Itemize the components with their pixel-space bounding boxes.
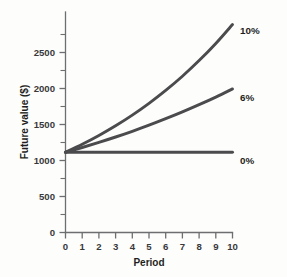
- chart-figure: 0 500 1000 1500 2000 2500 0 1 2 3 4 5 6 …: [0, 0, 287, 277]
- y-tick-label-1500: 1500: [34, 119, 55, 130]
- x-axis-title: Period: [133, 257, 164, 268]
- x-tick-label-10: 10: [227, 241, 238, 252]
- x-tick-label-6: 6: [163, 241, 168, 252]
- x-tick-label-0: 0: [63, 241, 68, 252]
- x-tick-label-8: 8: [196, 241, 202, 252]
- y-tick-label-2500: 2500: [34, 47, 55, 58]
- y-tick-label-0: 0: [50, 227, 55, 238]
- x-tick-label-9: 9: [213, 241, 218, 252]
- x-tick-label-2: 2: [96, 241, 101, 252]
- y-tick-label-2000: 2000: [34, 83, 55, 94]
- x-tick-label-4: 4: [130, 241, 136, 252]
- series-label-6-percent: 6%: [240, 92, 254, 103]
- future-value-line-chart: 0 500 1000 1500 2000 2500 0 1 2 3 4 5 6 …: [0, 0, 287, 277]
- x-tick-label-7: 7: [180, 241, 185, 252]
- series-label-10-percent: 10%: [240, 25, 260, 36]
- series-label-0-percent: 0%: [240, 155, 254, 166]
- x-tick-label-1: 1: [80, 241, 86, 252]
- y-tick-label-1000: 1000: [34, 155, 55, 166]
- y-axis-title: Future value ($): [19, 85, 30, 159]
- y-tick-label-500: 500: [39, 191, 55, 202]
- chart-background: [0, 0, 287, 277]
- x-tick-label-3: 3: [113, 241, 118, 252]
- x-tick-label-5: 5: [146, 241, 152, 252]
